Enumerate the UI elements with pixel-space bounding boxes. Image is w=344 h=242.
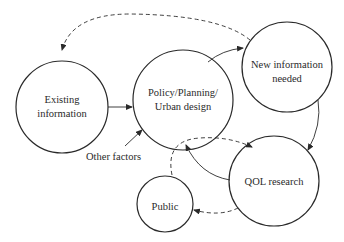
edge-newinfo-to-existing [62,14,250,50]
other-factors-label: Other factors [86,150,141,164]
node-policy-line-2: Urban design [148,100,218,114]
edge-other-factors-to-policy [125,130,142,146]
node-newinfo-line-2: needed [251,72,323,86]
node-existing-line-1: Existing [37,93,87,107]
node-newinfo-line-1: New information [251,58,323,72]
node-existing-line-2: information [37,107,87,121]
edge-newinfo-to-qol [308,100,319,150]
node-qol-label: QOL research [245,175,304,189]
node-newinfo-label: New information needed [251,58,323,86]
diagram-canvas: Existing information Policy/Planning/ Ur… [0,0,344,242]
node-existing-label: Existing information [37,93,87,121]
node-public-line-1: Public [152,200,179,214]
node-qol-line-1: QOL research [245,175,304,189]
node-policy-label: Policy/Planning/ Urban design [148,86,218,114]
edge-policy-to-qol [171,138,252,175]
edge-qol-to-public [194,208,238,213]
node-policy-line-1: Policy/Planning/ [148,86,218,100]
node-public-label: Public [152,200,179,214]
edge-qol-to-policy [186,145,230,180]
